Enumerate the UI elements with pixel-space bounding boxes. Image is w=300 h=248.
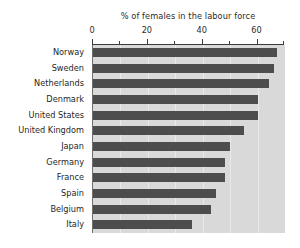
axis-line — [92, 44, 284, 45]
category-label: Sweden — [0, 61, 88, 76]
bar-row — [93, 92, 285, 107]
bars-layer — [93, 45, 285, 233]
bar-row — [93, 76, 285, 91]
axis-tick-major — [202, 39, 203, 44]
chart-title: % of females in the labour force — [92, 11, 284, 21]
category-label: Italy — [0, 217, 88, 232]
plot-area — [92, 45, 285, 233]
axis-tick-label: 20 — [142, 25, 152, 35]
bar-row — [93, 45, 285, 60]
bar-row — [93, 170, 285, 185]
bar — [93, 48, 277, 57]
category-label: Denmark — [0, 92, 88, 107]
category-axis-labels: NorwaySwedenNetherlandsDenmarkUnited Sta… — [0, 45, 88, 233]
category-label: France — [0, 170, 88, 185]
bar-row — [93, 139, 285, 154]
category-label: Germany — [0, 155, 88, 170]
bar — [93, 220, 192, 229]
axis-tick-label: 0 — [89, 25, 94, 35]
axis-tick-major — [92, 39, 93, 44]
bar-row — [93, 202, 285, 217]
bar — [93, 79, 269, 88]
category-label: Japan — [0, 139, 88, 154]
bar — [93, 173, 225, 182]
category-label: Belgium — [0, 202, 88, 217]
bar — [93, 64, 274, 73]
bar-row — [93, 186, 285, 201]
bar — [93, 189, 216, 198]
bar-row — [93, 217, 285, 232]
bar — [93, 126, 244, 135]
bar — [93, 205, 211, 214]
bar — [93, 95, 258, 104]
category-label: United Kingdom — [0, 123, 88, 138]
axis-tick-minor — [119, 41, 120, 44]
bar-chart-figure: % of females in the labour force 0204060… — [0, 0, 300, 248]
bar-row — [93, 61, 285, 76]
bar-row — [93, 155, 285, 170]
axis-tick-major — [257, 39, 258, 44]
bar — [93, 158, 225, 167]
axis-tick-label: 60 — [251, 25, 261, 35]
axis-tick-major — [147, 39, 148, 44]
bar — [93, 111, 258, 120]
category-label: Netherlands — [0, 76, 88, 91]
axis-tick-label: 40 — [196, 25, 206, 35]
axis-tick-minor — [174, 41, 175, 44]
category-label: United States — [0, 108, 88, 123]
axis-tick-minor — [283, 41, 284, 44]
category-label: Spain — [0, 186, 88, 201]
axis-tick-minor — [229, 41, 230, 44]
bar — [93, 142, 230, 151]
bar-row — [93, 108, 285, 123]
category-label: Norway — [0, 45, 88, 60]
bar-row — [93, 123, 285, 138]
